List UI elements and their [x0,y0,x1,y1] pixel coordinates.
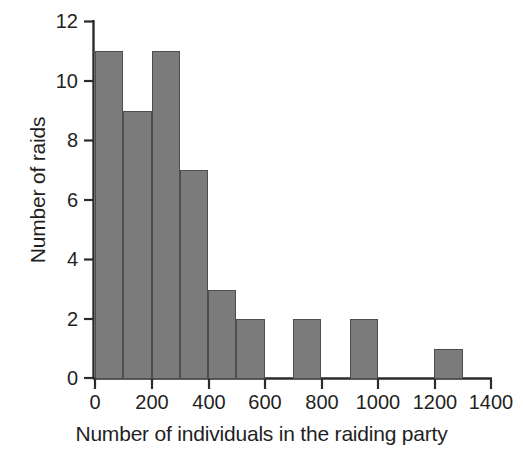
x-axis-title: Number of individuals in the raiding par… [0,422,523,446]
plot-area: 0 2 4 6 8 10 12 0 200 400 600 800 1000 1… [0,0,523,400]
y-tick-label-0: 0 [44,368,78,388]
bar-300-400 [180,170,208,379]
histogram-figure: 0 2 4 6 8 10 12 0 200 400 600 800 1000 1… [0,0,523,468]
y-tick-label-2: 2 [44,309,78,329]
bar-500-600 [236,319,264,379]
y-axis-title: Number of raids [26,75,50,305]
bar-1200-1300 [434,349,462,379]
y-tick-label-12: 12 [44,11,78,31]
bar-100-200 [123,111,151,380]
bar-900-1000 [350,319,378,379]
bar-0-100 [95,51,123,379]
x-tick-label-1400: 1400 [456,392,523,412]
bar-200-300 [152,51,180,379]
bar-700-800 [293,319,321,379]
bar-400-500 [208,290,236,380]
